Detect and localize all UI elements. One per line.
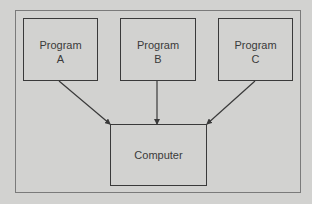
arrow-c-to-computer — [207, 81, 255, 124]
arrows-layer — [0, 0, 312, 204]
arrow-a-to-computer — [59, 81, 110, 124]
